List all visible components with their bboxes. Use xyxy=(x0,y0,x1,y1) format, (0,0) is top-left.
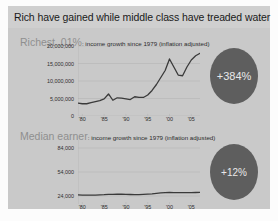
y-tick-label: 0 xyxy=(71,113,74,119)
y-tick-label: 10,000,000 xyxy=(47,78,74,84)
x-tick-label: '90 xyxy=(122,116,129,122)
line-chart-median xyxy=(78,140,200,204)
x-tick-label: '95 xyxy=(144,116,151,122)
plot-area-median xyxy=(78,140,200,204)
y-tick-label: 54,000 xyxy=(58,169,75,175)
x-tick-label: '05 xyxy=(188,116,195,122)
y-axis-labels-richest: 20,000,000 15,000,000 10,000,000 5,000,0… xyxy=(30,46,76,116)
y-tick-label: 24,000 xyxy=(58,193,75,199)
y-tick-label: 20,000,000 xyxy=(47,43,74,49)
chart-block-richest: Richest .01%: income growth since 1979 (… xyxy=(8,32,270,120)
plot-wrapper-median: 84,000 54,000 24,000 '80'85'90'95'00'05 xyxy=(30,140,200,204)
badge-richest: +384% xyxy=(210,48,258,104)
x-axis-labels-richest: '80'85'90'95'00'05 xyxy=(78,116,200,126)
y-axis-labels-median: 84,000 54,000 24,000 xyxy=(30,140,76,204)
page-title: Rich have gained while middle class have… xyxy=(8,11,270,23)
screenshot-root: Rich have gained while middle class have… xyxy=(0,0,278,221)
badge-median: +12% xyxy=(210,144,258,200)
x-tick-label: '85 xyxy=(101,204,108,210)
y-tick-label: 15,000,000 xyxy=(47,61,74,67)
plot-area-richest xyxy=(78,46,200,116)
x-axis-labels-median: '80'85'90'95'00'05 xyxy=(78,204,200,214)
y-tick-label: 84,000 xyxy=(58,145,75,151)
y-tick-label: 5,000,000 xyxy=(50,96,74,102)
infographic-panel: Rich have gained while middle class have… xyxy=(8,6,270,209)
badge-median-value: +12% xyxy=(221,167,247,178)
x-tick-label: '85 xyxy=(101,116,108,122)
x-tick-label: '80 xyxy=(79,116,86,122)
x-tick-label: '90 xyxy=(122,204,129,210)
x-tick-label: '00 xyxy=(166,116,173,122)
badge-richest-value: +384% xyxy=(217,70,252,82)
chart-block-median: Median earner: income growth since 1979 … xyxy=(8,126,270,209)
x-tick-label: '95 xyxy=(144,204,151,210)
line-chart-richest xyxy=(78,46,200,116)
x-tick-label: '00 xyxy=(166,204,173,210)
plot-wrapper-richest: 20,000,000 15,000,000 10,000,000 5,000,0… xyxy=(30,46,200,116)
x-tick-label: '05 xyxy=(188,204,195,210)
x-tick-label: '80 xyxy=(79,204,86,210)
title-band: Rich have gained while middle class have… xyxy=(8,6,270,28)
